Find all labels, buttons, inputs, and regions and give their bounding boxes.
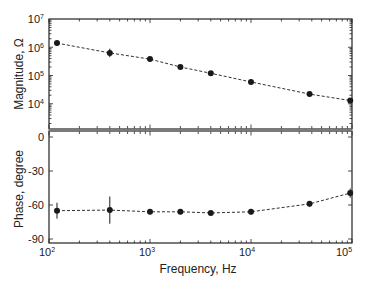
y-tick-label-1e7: 107	[28, 13, 44, 25]
data-point	[248, 79, 254, 85]
data-point	[347, 190, 353, 196]
data-point	[248, 209, 254, 215]
phase-series	[54, 189, 353, 224]
x-tick-label-1e5: 105	[336, 246, 352, 258]
frequency-tick-labels: 102 103 104 105	[39, 246, 352, 258]
data-point	[107, 50, 113, 56]
bode-plot: 107 106 105 104 0 -30 -60 -90 102 103 10…	[0, 0, 368, 281]
y-tick-label-0: 0	[38, 131, 44, 143]
magnitude-axis-title: Magnitude, Ω	[12, 38, 26, 110]
x-tick-label-1e3: 103	[139, 246, 155, 258]
data-point	[208, 70, 214, 76]
magnitude-tick-labels: 107 106 105 104	[28, 13, 44, 110]
data-point	[54, 208, 60, 214]
y-tick-label-minus30: -30	[28, 165, 44, 177]
x-tick-label-1e4: 104	[239, 246, 255, 258]
data-point	[208, 210, 214, 216]
magnitude-plot-frame	[49, 19, 352, 129]
data-point	[147, 56, 153, 62]
phase-tick-labels: 0 -30 -60 -90	[28, 131, 44, 245]
x-tick-label-1e2: 102	[39, 246, 55, 258]
magnitude-series	[54, 40, 353, 103]
data-point	[107, 207, 113, 213]
phase-plot-frame	[49, 131, 352, 243]
data-point	[54, 40, 60, 46]
x-axis-title: Frequency, Hz	[159, 262, 236, 276]
magnitude-axis-ticks	[49, 20, 352, 123]
data-point	[307, 201, 313, 207]
data-point	[147, 209, 153, 215]
y-tick-label-minus60: -60	[28, 199, 44, 211]
data-point	[347, 98, 353, 104]
y-tick-label-minus90: -90	[28, 233, 44, 245]
data-point	[177, 64, 183, 70]
y-tick-label-1e4: 104	[28, 98, 44, 110]
phase-axis-title: Phase, degree	[12, 150, 26, 228]
data-point	[177, 209, 183, 215]
data-point	[307, 91, 313, 97]
y-tick-label-1e6: 106	[28, 42, 44, 54]
y-tick-label-1e5: 105	[28, 70, 44, 82]
phase-axis-ticks	[49, 137, 352, 239]
panel-divider	[49, 129, 352, 132]
